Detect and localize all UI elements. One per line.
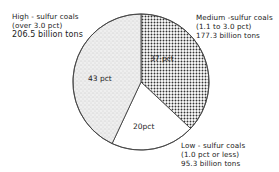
legend-medium-title: Medium -sulfur coals — [196, 13, 273, 22]
legend-high-title: High - sulfur coals — [12, 12, 83, 21]
slice-label-medium: 37 pct — [150, 54, 174, 63]
legend-high-range: (over 3.0 pct) — [12, 21, 83, 30]
legend-high-sulfur: High - sulfur coals (over 3.0 pct) 206.5… — [12, 12, 83, 39]
slice-label-high: 43 pct — [88, 74, 112, 83]
legend-high-amount: 206.5 billion tons — [12, 30, 83, 39]
legend-medium-sulfur: Medium -sulfur coals (1.1 to 3.0 pct) 17… — [196, 13, 273, 40]
legend-low-title: Low - sulfur coals — [181, 141, 245, 150]
legend-low-sulfur: Low - sulfur coals (1.0 pct or less) 95.… — [181, 141, 245, 168]
legend-low-amount: 95.3 billion tons — [181, 159, 245, 168]
legend-low-range: (1.0 pct or less) — [181, 150, 245, 159]
legend-medium-range: (1.1 to 3.0 pct) — [196, 22, 273, 31]
legend-medium-amount: 177.3 billion tons — [196, 31, 273, 40]
slice-label-low: 20pct — [133, 122, 154, 131]
